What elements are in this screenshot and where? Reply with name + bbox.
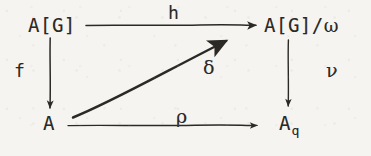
node-top-right: A[G]/ω bbox=[264, 16, 339, 35]
node-bottom-right-subscript: q bbox=[291, 123, 299, 138]
arrow-delta bbox=[73, 41, 226, 118]
commutative-diagram: A[G] A[G]/ω A Aq h f ν ρ δ bbox=[0, 0, 371, 156]
node-top-right-omega: ω bbox=[324, 15, 339, 36]
arrow-label-rho: ρ bbox=[176, 107, 187, 126]
arrow-rho bbox=[68, 125, 257, 126]
node-bottom-left-label: A bbox=[43, 112, 55, 134]
node-top-left-label: A[G] bbox=[28, 14, 76, 36]
node-bottom-left: A bbox=[43, 114, 55, 133]
node-top-right-label: A[G]/ bbox=[264, 14, 324, 36]
arrow-label-delta: δ bbox=[203, 58, 214, 77]
arrow-h bbox=[86, 25, 256, 26]
node-bottom-right: Aq bbox=[279, 114, 299, 137]
arrow-label-f: f bbox=[14, 62, 25, 80]
arrow-label-nu: ν bbox=[326, 61, 338, 80]
arrow-label-h: h bbox=[168, 4, 179, 22]
node-top-left: A[G] bbox=[28, 16, 76, 35]
node-bottom-right-label: A bbox=[279, 112, 291, 134]
